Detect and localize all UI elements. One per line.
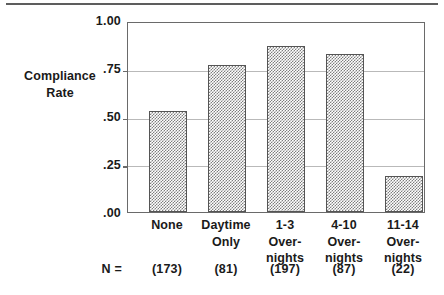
bar-daytime-only[interactable] (208, 65, 246, 212)
bar-1-3-overnights[interactable] (267, 46, 305, 212)
y-tick-label-0-25: .25 (75, 158, 121, 172)
y-tick-label-0-00: .00 (75, 206, 121, 220)
y-axis-tick-labels: 1.00 .75 .50 .25 .00 (71, 22, 121, 213)
bar-4-10-overnights[interactable] (326, 54, 364, 213)
bar-series (128, 23, 424, 212)
x-label-11-14-overnights: 11-14 Over- nights (363, 217, 443, 267)
y-tick-label-1-00: 1.00 (75, 14, 121, 28)
n-legend-label: N = (70, 262, 122, 276)
plot-area (127, 22, 425, 213)
bar-11-14-overnights[interactable] (385, 176, 423, 212)
sample-size-row: N = (173) (81) (197) (87) (22) (0, 262, 444, 284)
bar-none[interactable] (149, 111, 187, 212)
bar-chart-figure: Compliance Rate 1.00 .75 .50 .25 .00 Non… (0, 0, 444, 295)
y-tick-label-0-50: .50 (75, 110, 121, 124)
y-tick-label-0-75: .75 (75, 62, 121, 76)
n-value-11-14-overnights: (22) (363, 262, 443, 276)
